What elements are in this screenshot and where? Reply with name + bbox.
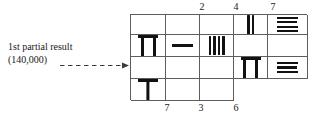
cell-r1c3 — [200, 15, 234, 35]
top-label-col5: 4 — [219, 1, 253, 12]
tally-glyph-7-bottom — [241, 57, 261, 78]
caption-line-1: 1st partial result — [8, 40, 128, 53]
tally-glyph-6 — [138, 79, 158, 100]
cell-r2c5 — [131, 57, 166, 79]
tally-glyph-7 — [138, 35, 158, 56]
pi-shape-icon — [138, 35, 158, 56]
cell-r3c4 — [131, 79, 166, 101]
bottom-label-col2: 7 — [150, 102, 184, 113]
bottom-label-col4: 6 — [219, 102, 253, 113]
cell-r2c6 — [166, 57, 200, 79]
top-label-col4: 2 — [185, 1, 219, 12]
cell-r1c1 — [131, 15, 166, 35]
lattice-grid — [130, 14, 307, 100]
caption-line-2: (140,000) — [8, 53, 47, 66]
cell-r2c3 — [234, 35, 268, 57]
cell-r2c2 — [200, 35, 234, 57]
tally-glyph-1 — [172, 44, 193, 47]
pi-shape-icon — [241, 57, 261, 78]
cell-r3c5 — [166, 79, 200, 101]
single-dash-icon — [172, 44, 193, 47]
cell-r1c6 — [131, 35, 166, 57]
tally-glyph-2 — [247, 15, 254, 34]
cell-r3c2 — [234, 57, 268, 79]
top-label-col6: 7 — [256, 1, 290, 12]
cell-r1c4 — [234, 15, 268, 35]
horizontal-bars-icon — [277, 17, 298, 32]
cell-r3c3 — [268, 57, 308, 79]
cell-r1c5 — [268, 15, 308, 35]
dashed-arrow-icon — [60, 61, 130, 70]
cell-r3c1 — [200, 57, 234, 79]
bottom-label-col3: 3 — [184, 102, 218, 113]
tee-shape-icon — [138, 79, 158, 100]
cell-r1c2 — [166, 15, 200, 35]
cell-r2c1 — [166, 35, 200, 57]
tally-glyph-3 — [277, 62, 298, 73]
cell-r2c4 — [268, 35, 308, 57]
vertical-strokes-icon — [209, 36, 225, 55]
tally-multiplication-figure: 1st partial result (140,000) 2 4 7 — [0, 0, 315, 122]
tally-glyph-4-strokes — [209, 36, 225, 55]
vertical-strokes-icon — [247, 15, 254, 34]
cell-r3c6 — [200, 79, 234, 101]
horizontal-bars-icon — [277, 62, 298, 73]
tally-glyph-4 — [277, 17, 298, 32]
